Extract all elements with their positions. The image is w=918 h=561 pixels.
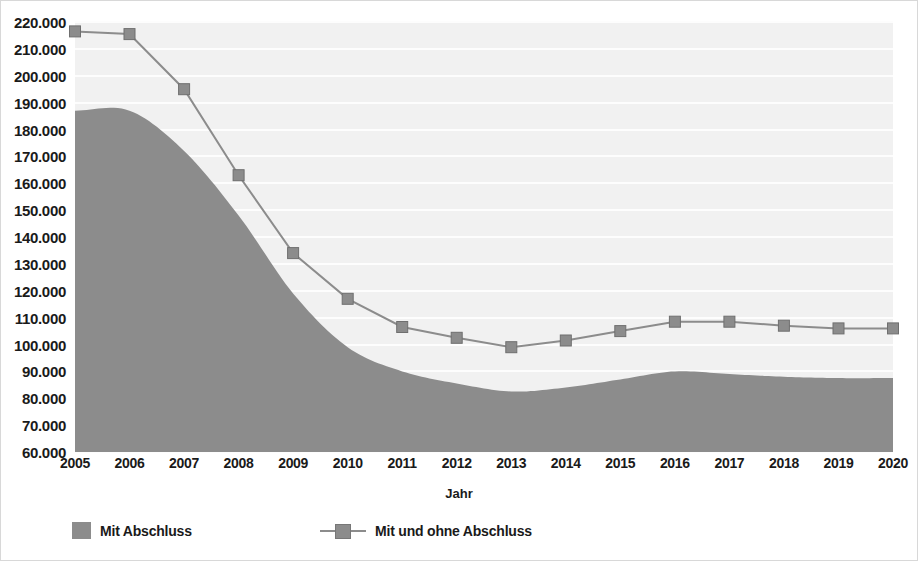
y-axis-tick-label: 130.000 [14, 255, 66, 272]
y-axis-tick-label: 210.000 [14, 40, 66, 57]
y-axis-tick-label: 110.000 [15, 309, 66, 326]
y-axis-tick-label: 90.000 [22, 363, 66, 380]
data-point-marker [288, 248, 299, 259]
legend-label-mit-abschluss: Mit Abschluss [100, 523, 192, 539]
y-axis-tick-label: 120.000 [14, 282, 66, 299]
chart-container: 220.000210.000200.000190.000180.000170.0… [0, 0, 918, 561]
data-point-marker [70, 26, 81, 37]
data-point-marker [451, 332, 462, 343]
data-point-marker [233, 170, 244, 181]
x-axis-tick-label: 2011 [388, 455, 417, 471]
legend-item-mit-und-ohne-abschluss[interactable]: Mit und ohne Abschluss [320, 522, 532, 539]
data-point-marker [397, 322, 408, 333]
data-point-marker [615, 326, 626, 337]
y-axis-tick-label: 150.000 [14, 202, 66, 219]
x-axis-tick-label: 2012 [442, 455, 472, 471]
x-axis-title: Jahr [0, 486, 918, 501]
x-axis-tick-label: 2016 [660, 455, 690, 471]
y-axis-tick-label: 80.000 [22, 390, 66, 407]
x-axis-tick-labels: 2005200620072008200920102011201220132014… [75, 455, 893, 479]
y-axis-tick-label: 100.000 [14, 336, 66, 353]
chart-legend: Mit Abschluss Mit und ohne Abschluss [0, 522, 918, 552]
data-point-marker [724, 316, 735, 327]
y-axis-tick-label: 180.000 [14, 121, 66, 138]
data-point-marker [833, 323, 844, 334]
y-axis-tick-label: 200.000 [14, 67, 66, 84]
x-axis-tick-label: 2007 [169, 455, 199, 471]
data-point-marker [888, 323, 899, 334]
x-axis-tick-label: 2017 [714, 455, 744, 471]
series-area-mit-abschluss [75, 108, 893, 452]
x-axis-tick-label: 2020 [878, 455, 908, 471]
legend-area-swatch-icon [72, 522, 91, 539]
y-axis-tick-label: 190.000 [14, 94, 66, 111]
legend-label-mit-und-ohne-abschluss: Mit und ohne Abschluss [375, 523, 532, 539]
x-axis-tick-label: 2019 [823, 455, 853, 471]
data-point-marker [124, 29, 135, 40]
y-axis-tick-label: 160.000 [14, 175, 66, 192]
y-axis-tick-label: 170.000 [14, 148, 66, 165]
legend-line-marker-icon [320, 522, 366, 539]
x-axis-tick-label: 2018 [769, 455, 799, 471]
data-point-marker [506, 342, 517, 353]
x-axis-tick-label: 2013 [496, 455, 526, 471]
series-layer [75, 22, 893, 452]
x-axis-tick-label: 2009 [278, 455, 308, 471]
data-point-marker [778, 320, 789, 331]
data-point-marker [179, 84, 190, 95]
data-point-marker [669, 316, 680, 327]
x-axis-tick-label: 2005 [60, 455, 90, 471]
data-point-marker [560, 335, 571, 346]
x-axis-tick-label: 2006 [115, 455, 145, 471]
x-axis-tick-label: 2015 [605, 455, 635, 471]
y-axis-tick-label: 220.000 [14, 14, 66, 31]
x-axis-tick-label: 2014 [551, 455, 581, 471]
y-axis-tick-label: 140.000 [14, 229, 66, 246]
y-axis-tick-label: 70.000 [22, 417, 66, 434]
data-point-marker [342, 293, 353, 304]
y-axis-tick-labels: 220.000210.000200.000190.000180.000170.0… [0, 0, 70, 561]
legend-item-mit-abschluss[interactable]: Mit Abschluss [72, 522, 192, 539]
x-axis-tick-label: 2010 [333, 455, 363, 471]
x-axis-tick-label: 2008 [224, 455, 254, 471]
